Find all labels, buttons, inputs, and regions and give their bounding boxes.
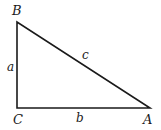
side-label-b: b	[76, 111, 84, 125]
right-triangle-diagram: B C A a b c	[0, 0, 161, 130]
vertex-label-b: B	[11, 3, 22, 18]
triangle-shape	[17, 22, 150, 108]
vertex-label-c: C	[13, 112, 23, 127]
side-label-a: a	[7, 60, 14, 74]
vertex-label-a: A	[142, 112, 152, 127]
side-label-c: c	[82, 48, 89, 62]
